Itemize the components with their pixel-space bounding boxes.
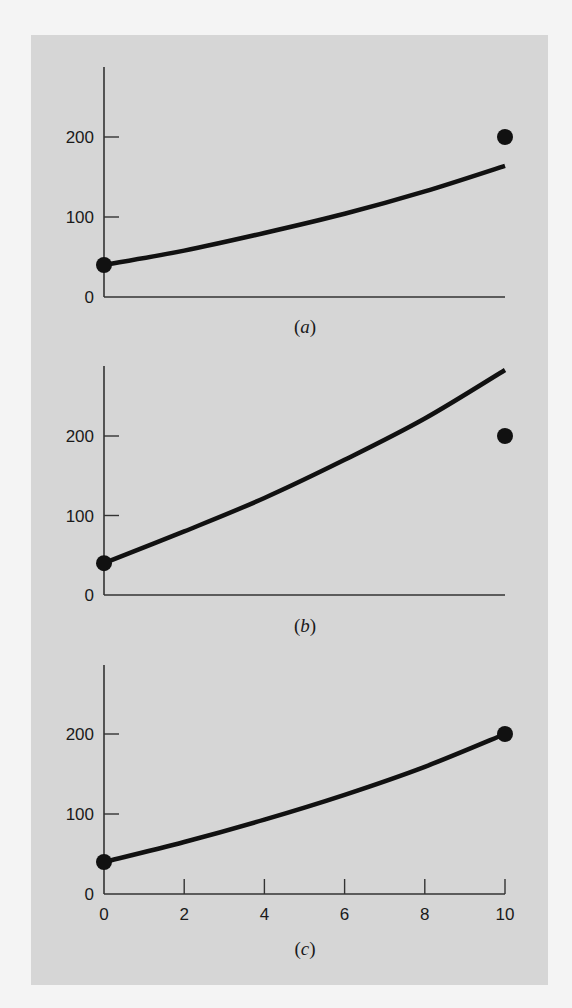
- axes-b: 0100200: [66, 366, 505, 605]
- caption-c: (c): [294, 938, 315, 960]
- x-tick-label: 6: [340, 905, 349, 924]
- y-tick-label: 100: [66, 208, 94, 227]
- caption-b: (b): [294, 615, 316, 637]
- chart-b: 0100200 (b): [66, 366, 513, 637]
- caption-a: (a): [294, 316, 316, 338]
- y-tick-label: 200: [66, 427, 94, 446]
- data-point: [96, 555, 112, 571]
- x-tick-label: 8: [420, 905, 429, 924]
- fit-curve: [104, 734, 505, 862]
- y-tick-label: 0: [85, 885, 94, 904]
- y-tick-label: 200: [66, 128, 94, 147]
- x-tick-label: 10: [496, 905, 515, 924]
- curve-a: [104, 166, 505, 265]
- axes-c: 01002000246810: [66, 665, 515, 924]
- data-point: [96, 854, 112, 870]
- points-a: [96, 129, 513, 273]
- x-tick-label: 4: [260, 905, 269, 924]
- data-point: [497, 428, 513, 444]
- x-tick-label: 2: [179, 905, 188, 924]
- y-tick-label: 100: [66, 805, 94, 824]
- figure-canvas: 0100200 (a) 0100200 (b) 01002000246810 (…: [0, 0, 572, 1008]
- curve-c: [104, 734, 505, 862]
- curve-b: [104, 370, 505, 563]
- y-tick-label: 0: [85, 586, 94, 605]
- x-tick-label: 0: [99, 905, 108, 924]
- y-tick-label: 0: [85, 288, 94, 307]
- chart-c: 01002000246810 (c): [66, 665, 515, 960]
- fit-curve: [104, 166, 505, 265]
- chart-a: 0100200 (a): [66, 67, 513, 338]
- data-point: [497, 726, 513, 742]
- data-point: [96, 257, 112, 273]
- fit-curve: [104, 370, 505, 563]
- y-tick-label: 100: [66, 507, 94, 526]
- points-b: [96, 428, 513, 571]
- y-tick-label: 200: [66, 725, 94, 744]
- data-point: [497, 129, 513, 145]
